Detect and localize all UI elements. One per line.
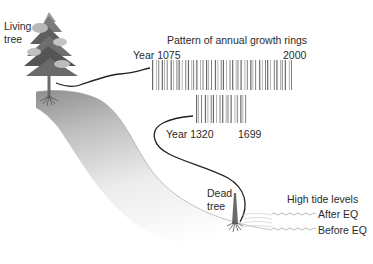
living-tree-label-line1: Living	[4, 20, 31, 32]
rings-title: Pattern of annual growth rings	[167, 34, 307, 46]
living-start-year: Year 1075	[133, 49, 181, 61]
high-tide-title: High tide levels	[287, 193, 358, 205]
after-eq-label: After EQ	[318, 208, 358, 220]
dead-tree-ring-pattern	[196, 95, 246, 123]
living-tree-connector	[56, 68, 150, 86]
dead-start-year: Year 1320	[166, 128, 214, 140]
dead-tree-label-line2: tree	[207, 200, 225, 212]
living-end-year: 2000	[283, 49, 306, 61]
hillslope	[36, 90, 272, 262]
before-eq-tide-line	[272, 228, 316, 230]
after-eq-tide-line	[272, 213, 316, 215]
before-eq-label: Before EQ	[318, 224, 367, 236]
living-tree-label-line2: tree	[4, 33, 22, 45]
living-tree-ring-pattern	[152, 60, 292, 90]
dead-end-year: 1699	[238, 128, 261, 140]
dead-tree-label-line1: Dead	[207, 187, 232, 199]
tide-ripples	[243, 214, 272, 228]
